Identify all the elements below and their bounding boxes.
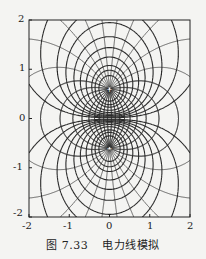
y-tick-neg2: -2 [13,208,23,218]
plot-lines [13,0,206,237]
y-tick-0: 0 [19,113,25,123]
positive-charge-marker: + [107,86,113,94]
x-tick-neg2: -2 [22,221,32,231]
figure-title: 电力线模拟 [102,239,160,252]
negative-charge-marker: − [107,145,113,153]
x-tick-2: 2 [187,221,193,231]
y-tick-2: 2 [18,14,24,24]
figure: +− 2 1 0 -1 -2 -2 -1 0 1 2 图 7.33 电力线模拟 [0,0,206,259]
x-tick-1: 1 [147,221,153,231]
equipotential-contour [41,20,179,117]
field-line [110,0,183,87]
x-tick-neg1: -1 [63,221,73,231]
equipotential-contour [41,120,179,217]
equipotential-contour [57,20,162,116]
y-tick-neg1: -1 [13,162,23,172]
plot-frame [29,20,190,217]
y-tick-1: 1 [19,63,25,73]
figure-caption: 图 7.33 电力线模拟 [0,236,206,252]
equipotential-contour [57,121,162,217]
field-line [36,0,109,87]
figure-number: 图 7.33 [46,239,88,252]
x-tick-0: 0 [106,221,112,231]
